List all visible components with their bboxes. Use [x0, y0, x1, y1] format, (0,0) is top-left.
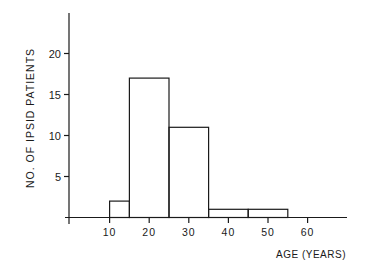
y-tick-label: 15	[49, 89, 61, 101]
y-axis-ticks: 5101520	[49, 48, 69, 183]
x-tick-label: 60	[301, 226, 315, 238]
histogram-chart: 5101520 102030405060 NO. OF IPSID PATIEN…	[0, 0, 366, 275]
x-tick-label: 10	[103, 226, 117, 238]
y-tick-label: 5	[55, 171, 61, 183]
y-tick-label: 10	[49, 130, 61, 142]
histogram-bar	[169, 127, 209, 217]
histogram-bar	[110, 201, 130, 217]
x-axis-label: AGE (YEARS)	[276, 249, 346, 260]
x-tick-label: 30	[182, 226, 196, 238]
x-axis-ticks: 102030405060	[103, 218, 315, 239]
y-axis-label: NO. OF IPSID PATIENTS	[24, 48, 36, 188]
histogram-bar	[209, 209, 249, 217]
x-tick-label: 40	[222, 226, 236, 238]
histogram-bar	[129, 78, 169, 217]
x-tick-label: 50	[261, 226, 275, 238]
histogram-bar	[248, 209, 288, 217]
y-tick-label: 20	[49, 48, 61, 60]
x-tick-label: 20	[142, 226, 156, 238]
plot-area	[110, 78, 288, 217]
